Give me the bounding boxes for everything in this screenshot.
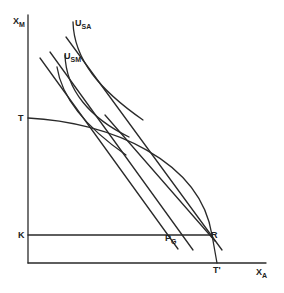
diagram-canvas: XM XA T K T' R PG USA USM: [0, 0, 284, 293]
price-line-1: [66, 37, 222, 250]
point-pg-label: PG: [165, 234, 176, 243]
price-line-4: [105, 115, 215, 241]
price-line-3: [40, 58, 178, 249]
diagram-svg: [0, 0, 284, 293]
u-sa-label: USA: [75, 19, 91, 28]
u-sm-curve: [65, 55, 129, 137]
point-t-prime-label: T': [213, 266, 221, 275]
y-axis-label: XM: [13, 17, 25, 26]
point-k-label: K: [18, 231, 25, 240]
point-t-label: T: [18, 114, 24, 123]
u-sm-label: USM: [64, 52, 81, 61]
u-sa-curve: [73, 22, 143, 120]
price-line-2: [50, 52, 193, 250]
x-axis-label: XA: [256, 268, 267, 277]
point-r-label: R: [211, 231, 218, 240]
transformation-curve: [28, 118, 217, 263]
